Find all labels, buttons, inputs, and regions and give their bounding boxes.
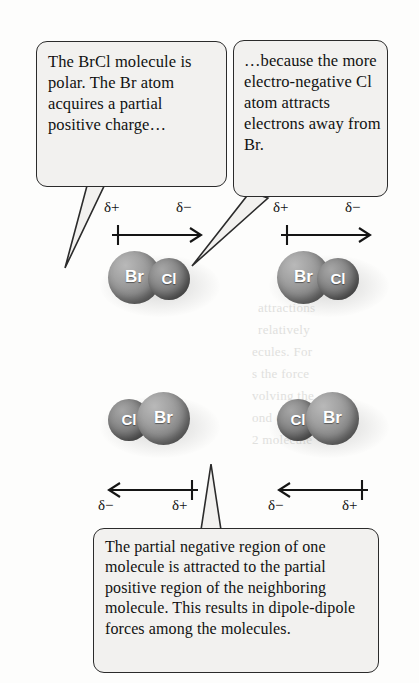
molecule-bottom-right: Cl Br (277, 392, 377, 448)
ghost-text-line-3: relatively (258, 322, 310, 338)
ghost-text-line-4: ecules. For (252, 344, 312, 360)
callout-right-text: …because the more electro-negative Cl at… (244, 50, 381, 156)
charge-label-bottom-left-minus: δ− (98, 497, 114, 514)
charge-label-top-right-plus: δ+ (273, 199, 289, 216)
dipole-arrow-bottom-left (102, 477, 202, 499)
atom-label-cl: Cl (291, 411, 306, 428)
atom-label-cl: Cl (122, 411, 137, 428)
ghost-text-line-5: s the force (252, 366, 309, 382)
atom-br-bottom-right: Br (306, 392, 359, 445)
charge-label-bottom-right-minus: δ− (268, 497, 284, 514)
atom-cl-top-left: Cl (148, 258, 190, 300)
atom-br-bottom-left: Br (137, 392, 190, 445)
callout-box-right: …because the more electro-negative Cl at… (233, 40, 388, 197)
callout-bottom-text: The partial negative region of one molec… (105, 537, 370, 639)
callout-box-left: The BrCl molecule is polar. The Br atom … (36, 41, 227, 187)
atom-label-cl: Cl (331, 270, 346, 287)
dipole-arrow-top-right (277, 222, 377, 244)
atom-label-cl: Cl (162, 270, 177, 287)
molecule-top-right: Br Cl (277, 251, 377, 307)
charge-label-top-right-minus: δ− (345, 199, 361, 216)
atom-cl-top-right: Cl (317, 258, 359, 300)
figure-root: ed Forces attractions relatively ecules.… (0, 0, 419, 683)
atom-label-br: Br (154, 408, 173, 428)
charge-label-bottom-right-plus: δ+ (342, 497, 358, 514)
molecule-bottom-left: Cl Br (108, 392, 208, 448)
callout-right-pointer (190, 190, 270, 270)
callout-left-text: The BrCl molecule is polar. The Br atom … (48, 51, 218, 135)
dipole-arrow-bottom-right (272, 477, 372, 499)
callout-box-bottom: The partial negative region of one molec… (93, 528, 379, 673)
atom-label-br: Br (125, 267, 144, 287)
atom-label-br: Br (323, 408, 342, 428)
charge-label-bottom-left-plus: δ+ (172, 497, 188, 514)
callout-left-pointer (52, 180, 122, 270)
atom-label-br: Br (294, 267, 313, 287)
callout-bottom-pointer (196, 462, 226, 532)
